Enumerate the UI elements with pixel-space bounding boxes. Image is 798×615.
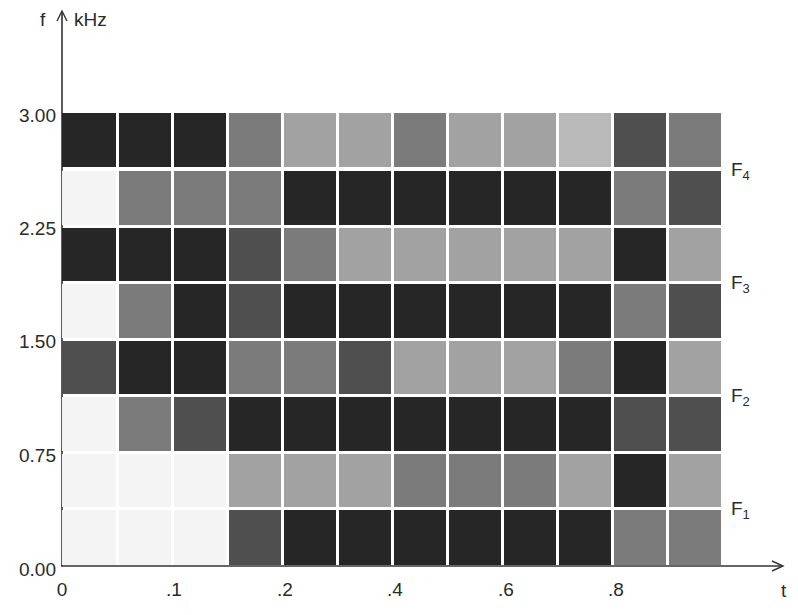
y-tick-label: 3.00 [19, 106, 56, 125]
heatmap-cell [229, 171, 281, 225]
heatmap-cell [504, 397, 556, 451]
heatmap-cell [119, 454, 171, 508]
heatmap-cell [614, 284, 666, 338]
heatmap-cell [119, 113, 171, 167]
heatmap-cell [614, 397, 666, 451]
heatmap-cell [669, 113, 721, 167]
heatmap-cell [559, 397, 611, 451]
heatmap-cell [614, 341, 666, 395]
heatmap-cell [504, 510, 556, 565]
heatmap-cell [394, 510, 446, 565]
heatmap-cell [449, 228, 501, 282]
heatmap-cell [62, 397, 116, 451]
heatmap-cell [174, 510, 226, 565]
heatmap-cell [284, 228, 336, 282]
heatmap-cell [62, 341, 116, 395]
heatmap-cell [559, 171, 611, 225]
x-tick-label: .4 [387, 580, 403, 599]
heatmap-cell [449, 454, 501, 508]
heatmap-cell [559, 228, 611, 282]
heatmap-cell [62, 510, 116, 565]
heatmap-cell [174, 171, 226, 225]
formant-label-f1: F1 [731, 499, 750, 524]
heatmap-cell [614, 228, 666, 282]
heatmap-cell [449, 341, 501, 395]
heatmap-cell [229, 341, 281, 395]
heatmap-cell [284, 341, 336, 395]
heatmap-cell [394, 341, 446, 395]
heatmap-cell [229, 454, 281, 508]
heatmap-cell [449, 113, 501, 167]
heatmap-cell [339, 171, 391, 225]
heatmap-cell [504, 341, 556, 395]
x-tick-label: .8 [608, 580, 624, 599]
y-axis-unit: kHz [74, 10, 107, 29]
heatmap-cell [229, 228, 281, 282]
heatmap-cell [504, 454, 556, 508]
heatmap-cell [559, 284, 611, 338]
heatmap-cell [504, 113, 556, 167]
heatmap-cell [284, 284, 336, 338]
heatmap-cell [62, 228, 116, 282]
heatmap-cell [504, 228, 556, 282]
heatmap-cell [119, 284, 171, 338]
heatmap-cell [62, 454, 116, 508]
heatmap-cell [229, 510, 281, 565]
heatmap-cell [62, 171, 116, 225]
heatmap-cell [449, 510, 501, 565]
heatmap-cell [229, 113, 281, 167]
formant-label-f3: F3 [731, 273, 750, 298]
heatmap-cell [339, 228, 391, 282]
heatmap-cell [339, 341, 391, 395]
heatmap-cell [339, 397, 391, 451]
y-tick-label: 0.00 [19, 560, 56, 579]
heatmap-cell [504, 171, 556, 225]
y-tick-label: 1.50 [19, 332, 56, 351]
heatmap-cell [119, 171, 171, 225]
heatmap-cell [449, 171, 501, 225]
heatmap-cell [669, 397, 721, 451]
heatmap-cell [229, 397, 281, 451]
heatmap-cell [614, 510, 666, 565]
heatmap-cell [284, 397, 336, 451]
heatmap-cell [119, 397, 171, 451]
heatmap-cell [284, 113, 336, 167]
y-tick-label: 2.25 [19, 219, 56, 238]
heatmap-cell [504, 284, 556, 338]
heatmap-cell [449, 284, 501, 338]
heatmap-cell [614, 113, 666, 167]
heatmap-cell [669, 341, 721, 395]
spectrogram-grid [62, 113, 722, 565]
heatmap-cell [559, 113, 611, 167]
heatmap-cell [62, 284, 116, 338]
heatmap-cell [339, 510, 391, 565]
heatmap-cell [174, 397, 226, 451]
heatmap-cell [174, 284, 226, 338]
x-tick-label: 0 [57, 580, 68, 599]
heatmap-cell [559, 341, 611, 395]
heatmap-cell [394, 284, 446, 338]
heatmap-cell [339, 284, 391, 338]
heatmap-cell [394, 113, 446, 167]
heatmap-cell [119, 510, 171, 565]
heatmap-cell [394, 454, 446, 508]
y-tick-label: 0.75 [19, 446, 56, 465]
heatmap-cell [669, 510, 721, 565]
heatmap-cell [284, 510, 336, 565]
heatmap-cell [284, 454, 336, 508]
heatmap-cell [229, 284, 281, 338]
heatmap-cell [669, 284, 721, 338]
heatmap-cell [284, 171, 336, 225]
heatmap-cell [669, 454, 721, 508]
formant-label-f4: F4 [731, 160, 750, 185]
heatmap-cell [394, 397, 446, 451]
x-tick-label: .2 [277, 580, 293, 599]
heatmap-cell [669, 228, 721, 282]
y-axis-label: f [40, 10, 45, 29]
x-tick-label: .1 [166, 580, 182, 599]
heatmap-cell [449, 397, 501, 451]
heatmap-cell [339, 113, 391, 167]
x-tick-label: .6 [498, 580, 514, 599]
heatmap-cell [62, 113, 116, 167]
heatmap-cell [119, 228, 171, 282]
